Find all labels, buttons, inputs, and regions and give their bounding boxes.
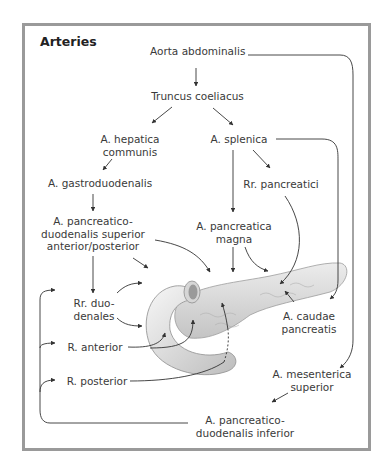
label-a-mesenterica-superior: A. mesenterica superior [270, 368, 354, 393]
label-a-splenica: A. splenica [204, 133, 274, 146]
label-a-pancreatica-magna: A. pancreatica magna [196, 220, 272, 245]
label-a-caudae-pancreatis: A. caudae pancreatis [277, 310, 341, 335]
label-r-anterior: R. anterior [62, 341, 128, 354]
label-truncus-coeliacus: Truncus coeliacus [150, 90, 245, 103]
label-a-hepatica-communis: A. hepatica communis [95, 133, 165, 158]
label-a-pancreaticoduodenalis-superior: A. pancreatico- duodenalis superior ante… [38, 215, 148, 253]
label-r-posterior: R. posterior [62, 375, 132, 388]
label-a-pancreaticoduodenalis-inferior: A. pancreatico- duodenalis inferior [190, 414, 300, 439]
figure-title: Arteries [40, 34, 97, 49]
label-aorta-abdominalis: Aorta abdominalis [150, 45, 245, 58]
label-rr-duodenales: Rr. duo- denales [70, 297, 118, 322]
label-rr-pancreatici: Rr. pancreatici [242, 178, 320, 191]
label-a-gastroduodenalis: A. gastroduodenalis [48, 177, 143, 190]
